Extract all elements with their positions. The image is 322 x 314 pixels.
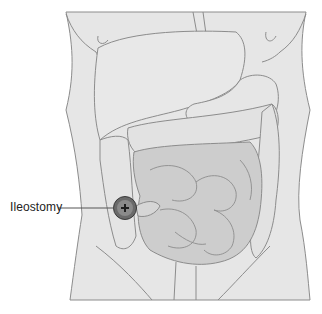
ileostomy-label: Ileostomy	[10, 200, 62, 214]
ileostomy-stoma	[114, 197, 137, 220]
abdomen-diagram	[0, 0, 322, 314]
